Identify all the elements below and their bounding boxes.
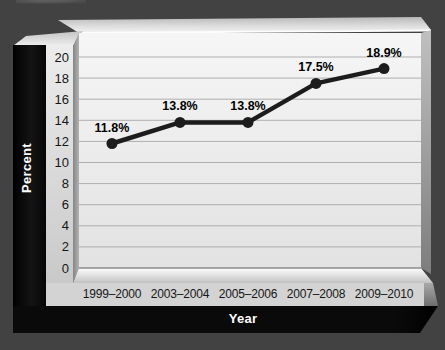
- data-point-label: 11.8%: [78, 121, 146, 135]
- y-tick-label: 0: [44, 261, 69, 276]
- data-point-label: 18.9%: [350, 46, 418, 60]
- y-tick-label: 4: [44, 218, 69, 233]
- x-axis-title: Year: [183, 311, 303, 329]
- box-floor-face: [73, 268, 433, 283]
- y-tick-label: 10: [44, 155, 69, 170]
- y-tick-label: 18: [44, 71, 69, 86]
- y-tick-label: 6: [44, 197, 69, 212]
- y-tick-label: 8: [44, 176, 69, 191]
- chart-figure: Percent Year 02468101214161820 1999–2000…: [0, 0, 445, 350]
- xlabel-strip-right-face: [424, 283, 438, 306]
- y-tick-label: 2: [44, 239, 69, 254]
- y-tick-label: 16: [44, 92, 69, 107]
- data-point-marker: [243, 117, 254, 128]
- data-point-marker: [379, 63, 390, 74]
- box-right-face: [421, 30, 431, 274]
- y-tick-label: 20: [44, 50, 69, 65]
- box-left-wall: [73, 33, 79, 283]
- data-point-marker: [107, 138, 118, 149]
- data-point-label: 13.8%: [214, 99, 282, 113]
- plot-area: [79, 33, 421, 268]
- x-tick-label: 2009–2010: [344, 287, 424, 301]
- data-point-marker: [175, 117, 186, 128]
- y-tick-label: 14: [44, 113, 69, 128]
- data-point-label: 17.5%: [282, 60, 350, 74]
- y-tick-label: 12: [44, 134, 69, 149]
- left-top-bevel: [13, 31, 83, 46]
- y-axis-title: Percent: [19, 98, 39, 238]
- data-point-label: 13.8%: [146, 99, 214, 113]
- data-point-marker: [311, 78, 322, 89]
